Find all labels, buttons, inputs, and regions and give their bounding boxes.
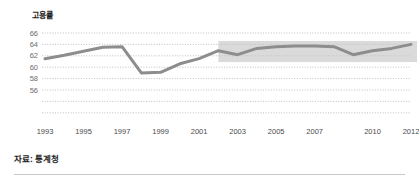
x-axis-tick-label: 2012 — [403, 127, 419, 136]
y-axis-tick-label: 66 — [30, 29, 38, 38]
source-note: 자료: 통계청 — [14, 152, 59, 164]
bottom-divider — [14, 174, 405, 175]
x-axis-tick-label: 1997 — [114, 127, 131, 136]
y-axis-tick-label: 62 — [30, 51, 38, 60]
y-axis-tick-labels: 666462605856 — [30, 29, 38, 95]
employment-rate-line-chart: 666462605856 199319951997199920012003200… — [0, 0, 419, 150]
chart-figure: 고용률 666462605856 19931995199719992001200… — [0, 0, 419, 184]
x-axis-tick-labels: 1993199519971999200120032005200720102012 — [37, 127, 419, 136]
x-axis-tick-label: 1999 — [152, 127, 169, 136]
x-axis-tick-label: 2005 — [268, 127, 285, 136]
x-axis-tick-label: 1995 — [75, 127, 92, 136]
x-axis-tick-label: 2001 — [191, 127, 208, 136]
y-axis-tick-label: 64 — [30, 40, 38, 49]
x-axis-tick-label: 2010 — [364, 127, 381, 136]
y-axis-tick-label: 56 — [30, 86, 38, 95]
x-axis-tick-label: 2007 — [306, 127, 323, 136]
y-axis-tick-label: 60 — [30, 63, 38, 72]
y-axis-tick-label: 58 — [30, 74, 38, 83]
x-axis-tick-label: 2003 — [229, 127, 246, 136]
x-axis-tick-label: 1993 — [37, 127, 54, 136]
